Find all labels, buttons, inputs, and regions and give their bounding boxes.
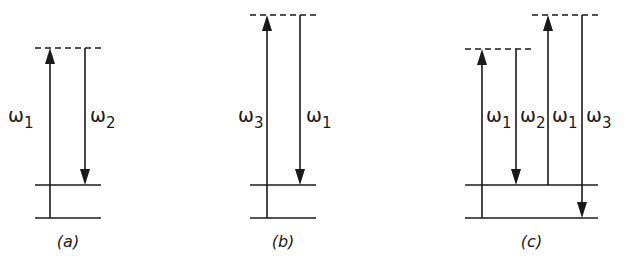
arrow-down-icon: [577, 202, 587, 218]
frequency-label: ω3: [586, 104, 611, 132]
panel-caption: (c): [521, 232, 542, 251]
arrow-down-icon: [295, 169, 305, 185]
transition-arrow: ω3: [238, 15, 272, 218]
transition-arrow: ω2: [511, 49, 545, 185]
panel-caption: (b): [272, 232, 295, 251]
energy-level-diagram: ω1ω2(a)ω3ω1(b)ω1ω2ω1ω3(c): [0, 0, 629, 262]
transition-arrow: ω1: [477, 49, 511, 218]
arrow-up-icon: [477, 49, 487, 65]
panel-b: ω3ω1(b): [238, 15, 331, 251]
transition-arrow: ω3: [577, 15, 611, 218]
frequency-label: ω2: [520, 104, 545, 132]
transition-arrow: ω2: [80, 48, 115, 185]
frequency-label: ω1: [306, 104, 331, 132]
panel-c: ω1ω2ω1ω3(c): [465, 15, 611, 251]
arrow-down-icon: [80, 169, 90, 185]
transition-arrow: ω1: [295, 15, 331, 185]
frequency-label: ω1: [486, 104, 511, 132]
arrow-up-icon: [45, 48, 55, 64]
panel-caption: (a): [57, 232, 79, 251]
arrow-down-icon: [511, 169, 521, 185]
frequency-label: ω1: [8, 104, 33, 132]
frequency-label: ω3: [238, 104, 263, 132]
arrow-up-icon: [262, 15, 272, 31]
arrow-up-icon: [543, 15, 553, 31]
frequency-label: ω1: [552, 104, 577, 132]
transition-arrow: ω1: [8, 48, 55, 218]
panel-a: ω1ω2(a): [8, 48, 115, 251]
transition-arrow: ω1: [543, 15, 577, 185]
frequency-label: ω2: [90, 104, 115, 132]
